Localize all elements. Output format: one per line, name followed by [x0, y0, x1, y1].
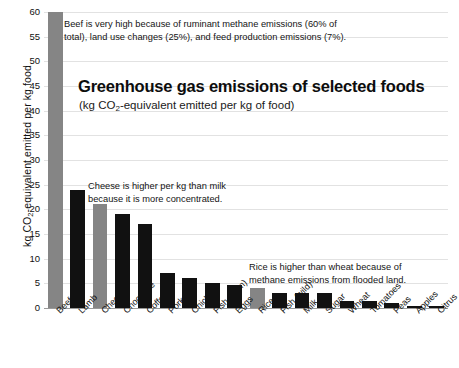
chart-subtitle-prefix: (kg CO [79, 99, 115, 111]
y-tick-label: 50 [20, 56, 40, 66]
y-tick-label: 0 [20, 303, 40, 313]
annotation-cheese: Cheese is higher per kg than milk becaus… [88, 180, 226, 206]
y-tick-label: 30 [20, 155, 40, 165]
y-tick-label: 60 [20, 7, 40, 17]
annotation-beef-line1: Beef is very high because of ruminant me… [64, 18, 346, 31]
y-tick-label: 5 [20, 278, 40, 288]
annotation-rice-line1: Rice is higher than wheat because of [249, 261, 406, 274]
y-tick-label: 55 [20, 32, 40, 42]
annotation-beef-line2: total), land use changes (25%), and feed… [64, 31, 346, 44]
annotation-cheese-line1: Cheese is higher per kg than milk [88, 180, 226, 193]
chart-subtitle-subscript: 2 [115, 104, 119, 113]
annotation-beef: Beef is very high because of ruminant me… [64, 18, 346, 44]
bar-beef[interactable] [48, 12, 63, 308]
annotation-cheese-line2: because it is more concentrated. [88, 193, 226, 206]
y-tick-label: 15 [20, 229, 40, 239]
chart-subtitle-suffix: -equivalent emitted per kg of food) [120, 99, 295, 111]
bar-lamb[interactable] [70, 190, 85, 308]
y-axis-ticks: 051015202530354045505560 [16, 12, 40, 308]
x-axis-labels: BeefLambCheeseChocolateCoffeePorkChicken… [44, 309, 448, 367]
y-tick-label: 20 [20, 204, 40, 214]
annotation-rice-line2: methane emissions from flooded land. [249, 274, 406, 287]
chart-subtitle: (kg CO2-equivalent emitted per kg of foo… [79, 99, 294, 111]
y-tick-label: 45 [20, 81, 40, 91]
chart-title: Greenhouse gas emissions of selected foo… [78, 77, 424, 96]
annotation-rice: Rice is higher than wheat because of met… [249, 261, 406, 287]
y-tick-label: 10 [20, 254, 40, 264]
y-tick-label: 40 [20, 106, 40, 116]
y-tick-label: 35 [20, 130, 40, 140]
y-tick-label: 25 [20, 180, 40, 190]
bar-cheese[interactable] [93, 204, 108, 308]
